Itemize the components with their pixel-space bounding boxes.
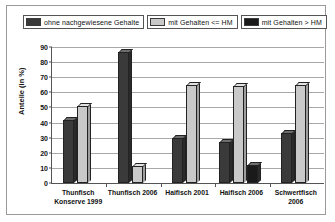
bar-face [247,165,258,183]
y-axis-tick-label: 40 [40,119,48,126]
bar-face [295,85,306,183]
plot-area: 0102030405060708090 [51,47,324,184]
x-axis-tick-mark [215,183,216,187]
bar-face [77,106,88,183]
chart-container: ohne nachgewiesene Gehalte mit Gehalten … [6,5,326,215]
bar-group [270,47,324,183]
x-axis-tick-mark [161,183,162,187]
bar-face [186,85,197,183]
bar [77,106,88,183]
y-axis-tick-label: 20 [40,149,48,156]
bar-side-3d [88,103,91,183]
y-axis-tick-label: 0 [44,180,48,187]
legend-entry-levels-above-hm: mit Gehalten > HM [241,15,327,29]
y-axis-tick-label: 50 [40,104,48,111]
bar [132,166,143,183]
legend-swatch-icon [244,18,259,26]
legend-swatch-icon [26,18,41,26]
bar [219,142,230,183]
bar-face [281,133,292,183]
bar-group [161,47,215,183]
legend-label: mit Gehalten > HM [262,19,326,26]
y-axis-title: Anteile (in %) [17,67,26,115]
legend-label: ohne nachgewiesene Gehalte [44,19,143,26]
legend-entry-levels-below-or-equal-hm: mit Gehalten <= HM [147,15,237,29]
bar-side-3d [129,49,132,183]
bar-face [118,52,129,183]
bar [186,85,197,183]
bar [233,86,244,183]
bar-group [215,47,269,183]
y-axis-tick-label: 60 [40,89,48,96]
bar [63,120,74,183]
bar-side-3d [143,163,146,183]
bar-side-3d [197,82,200,183]
bar [247,165,258,183]
bar-face [233,86,244,183]
y-axis-tick-label: 30 [40,134,48,141]
y-axis-tick-label: 80 [40,59,48,66]
legend-swatch-icon [150,18,165,26]
bar-face [132,166,143,183]
x-axis-tick-mark [106,183,107,187]
bar [295,85,306,183]
x-axis-category-labels: Thunfisch Konserve 1999Thunfisch 2006Hai… [51,189,323,215]
bar-top-3d [119,49,133,52]
bar-face [63,120,74,183]
bar [118,52,129,183]
y-axis-tick-label: 10 [40,164,48,171]
legend-entry-no-detected-levels: ohne nachgewiesene Gehalte [23,15,144,29]
bar-group [106,47,160,183]
bar-face [172,138,183,183]
x-axis-tick-mark [270,183,271,187]
bar-face [219,142,230,183]
bar-side-3d [258,162,261,183]
bar [172,138,183,183]
y-axis-tick-label: 90 [40,44,48,51]
chart-legend: ohne nachgewiesene Gehalte mit Gehalten … [23,15,313,29]
legend-label: mit Gehalten <= HM [168,19,236,26]
bar-side-3d [306,82,309,183]
x-axis-category-label: Schwertfisch 2006 [261,189,331,206]
y-axis-tick-label: 70 [40,74,48,81]
bar-group [52,47,106,183]
bar [281,133,292,183]
